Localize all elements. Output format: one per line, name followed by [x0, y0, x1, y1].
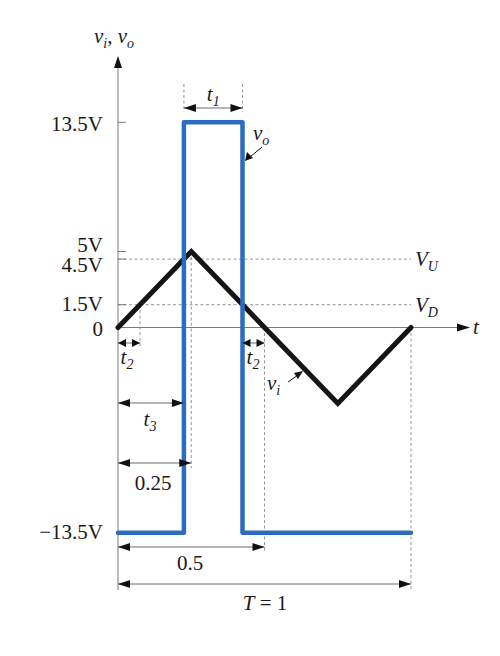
arrow-right-icon: [132, 339, 140, 347]
y-tick-label: −13.5V: [39, 520, 103, 544]
interval-label-t3-subscript: 3: [148, 419, 156, 434]
interval-label-t2b: t2: [247, 345, 260, 372]
callout-arrow-vi-icon: [294, 371, 303, 379]
arrow-left-icon: [184, 104, 196, 112]
y-axis-label-vo-subscript: o: [127, 36, 134, 51]
y-tick-label: 0: [93, 317, 104, 341]
arrow-right-icon: [253, 543, 265, 551]
interval-label-t2b-subscript: 2: [252, 357, 259, 372]
interval-label-t2a: t2: [121, 345, 134, 372]
y-axis-arrow-icon: [114, 56, 122, 68]
series-label-vi: vi: [267, 371, 280, 398]
y-tick-label: 4.5V: [62, 253, 103, 277]
comparator-waveform-diagram: VUVDvi, vot13.5V5V4.5V1.5V0−13.5Vt1t2t2t…: [0, 0, 500, 656]
interval-label-t1-subscript: 1: [213, 94, 220, 109]
arrow-left-icon: [118, 543, 130, 551]
arrow-right-icon: [399, 580, 411, 588]
threshold-label-u-subscript: U: [428, 259, 439, 274]
interval-label-period-value: = 1: [254, 591, 287, 615]
x-axis-arrow-icon: [457, 324, 470, 332]
series-label-vi-subscript: i: [276, 383, 280, 398]
y-axis-label-separator: ,: [107, 24, 118, 48]
interval-label-t3: t3: [144, 407, 157, 434]
arrow-right-icon: [257, 339, 265, 347]
interval-label-t1: t1: [207, 82, 220, 109]
y-tick-label: 13.5V: [51, 112, 103, 136]
arrow-left-icon: [118, 399, 130, 407]
interval-label-quarter: 0.25: [135, 471, 172, 495]
callout-line-vo: [250, 147, 262, 157]
interval-label-t2a-subscript: 2: [126, 357, 133, 372]
x-axis-label: t: [473, 315, 480, 339]
threshold-label-d: VD: [415, 293, 438, 320]
interval-label-period: T = 1: [243, 591, 288, 615]
arrow-left-icon: [118, 580, 130, 588]
threshold-label-d-subscript: D: [427, 305, 438, 320]
y-tick-label: 1.5V: [62, 292, 103, 316]
callout-arrow-vo-icon: [245, 152, 253, 161]
arrow-right-icon: [231, 104, 243, 112]
series-label-vo-subscript: o: [262, 133, 269, 148]
series-label-vo: vo: [253, 121, 269, 148]
interval-label-half: 0.5: [177, 551, 203, 575]
threshold-label-u: VU: [415, 247, 439, 274]
arrow-left-icon: [118, 459, 130, 467]
y-axis-label: vi, vo: [94, 24, 134, 51]
